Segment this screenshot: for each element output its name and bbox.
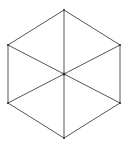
vertex-marker-top [63,9,65,11]
vertex-marker-lower-left [7,102,9,104]
vertex-marker-lower-right [119,102,121,104]
vertex-marker-upper-right [119,44,121,46]
hexagon-wireframe-figure [0,0,129,147]
vertex-marker-bottom [63,137,65,139]
center-point-marker [62,72,65,75]
vertex-marker-upper-left [7,44,9,46]
